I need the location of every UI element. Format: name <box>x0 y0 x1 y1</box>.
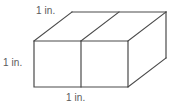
receding-edge-left <box>34 12 72 41</box>
dimension-label-left: 1 in. <box>3 57 22 68</box>
top-face-divider <box>81 12 119 41</box>
receding-edge-right <box>128 12 166 41</box>
dimension-label-bottom: 1 in. <box>66 92 85 103</box>
dimension-label-top: 1 in. <box>36 5 55 16</box>
prism-edges <box>34 12 166 87</box>
rectangular-prism-drawing <box>0 0 177 108</box>
geometry-figure: 1 in. 1 in. 1 in. <box>0 0 177 108</box>
right-face-bottom-edge <box>128 58 166 87</box>
